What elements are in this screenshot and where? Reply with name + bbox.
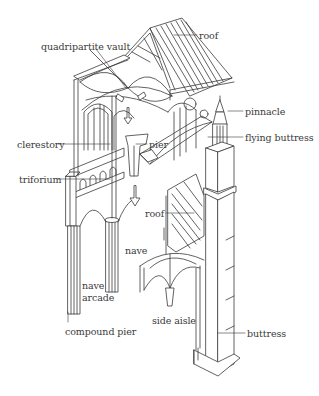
label-roof-top: roof xyxy=(199,31,218,41)
label-side-aisle: side aisle xyxy=(152,316,196,326)
flying-buttress-drawing xyxy=(140,98,212,164)
aisle-roof-drawing xyxy=(164,174,204,256)
pinnacle-drawing xyxy=(213,96,227,146)
compound-piers-drawing xyxy=(66,80,132,314)
label-triforium: triforium xyxy=(19,175,61,185)
clerestory-drawing xyxy=(84,104,134,150)
label-nave-arcade-line1: nave xyxy=(82,281,104,291)
label-quadripartite-vault: quadripartite vault xyxy=(41,42,130,52)
label-pinnacle: pinnacle xyxy=(245,107,285,117)
label-flying-buttress: flying buttress xyxy=(245,133,313,143)
pier-drawing xyxy=(126,134,148,206)
side-aisle-vault-drawing xyxy=(140,253,204,350)
label-clerestory: clerestory xyxy=(17,140,64,150)
label-compound-pier: compound pier xyxy=(65,327,136,337)
label-roof-aisle: roof xyxy=(145,209,164,219)
label-nave: nave xyxy=(125,246,147,256)
label-buttress: buttress xyxy=(247,329,286,339)
label-nave-arcade-line2: arcade xyxy=(82,293,114,303)
cathedral-diagram: roof quadripartite vault pinnacle flying… xyxy=(0,0,319,396)
label-pier: pier xyxy=(149,140,168,150)
